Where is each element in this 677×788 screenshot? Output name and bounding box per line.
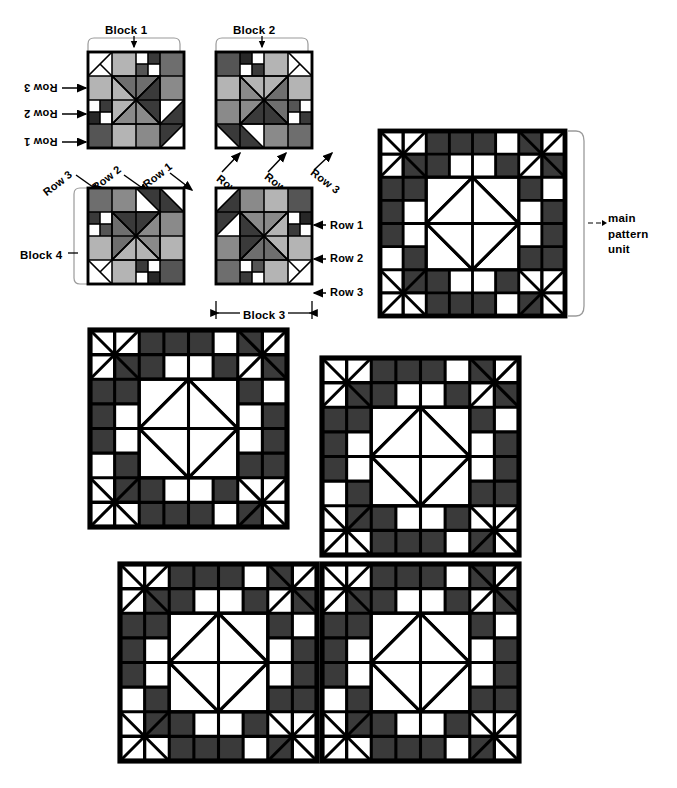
main-pattern-unit [380,131,565,316]
pattern-unit-3 [322,358,519,555]
block4-row1-label: Row 1 [141,160,175,190]
block-4-bracket [74,188,88,284]
block3-row1-label: Row 1 [330,219,363,231]
block-2-bracket [216,38,308,52]
block2-row3-label: Row 3 [309,166,343,196]
block3-row2-label: Row 2 [330,252,363,264]
block2-row1-arrow [222,153,240,172]
main-pattern-unit-bracket [568,131,584,316]
main-pattern-unit-line-2: pattern [608,227,648,243]
block-3-label: Block 3 [243,309,285,321]
block-4-label: Block 4 [20,249,62,261]
block-1-label: Block 1 [105,24,147,36]
fabric-block-block-4 [88,188,184,284]
main-pattern-unit-label: main pattern unit [608,211,648,258]
main-pattern-unit-line-1: main [608,211,648,227]
pattern-unit-5 [322,564,519,761]
fabric-block-block-1 [88,52,184,148]
block1-row3-label: Row 3 [24,82,57,94]
pattern-unit-2 [90,330,287,527]
main-pattern-unit-leader [588,220,607,226]
block4-row3-label: Row 3 [41,168,75,198]
block1-row1-label: Row 1 [24,136,57,148]
fabric-block-block-2 [216,52,312,148]
block-2-label: Block 2 [233,24,275,36]
pattern-unit-4 [120,564,317,761]
block3-row3-label: Row 3 [330,286,363,298]
fabric-block-block-3 [216,188,312,284]
block2-row2-arrow [268,153,286,172]
block-1-bracket [88,38,180,52]
block1-row2-label: Row 2 [24,108,57,120]
main-pattern-unit-line-3: unit [608,242,648,258]
